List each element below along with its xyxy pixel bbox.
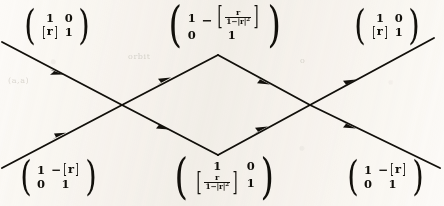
- edge-5-arrowhead: [256, 77, 270, 84]
- right-paren: ): [85, 160, 97, 194]
- cell-a21: 0: [34, 178, 48, 191]
- bracket-group: [r]: [62, 163, 80, 176]
- symbol-r: r: [395, 163, 401, 176]
- bracket-group: [r]: [41, 25, 59, 38]
- bracket-group: [r1−|r|2]: [215, 7, 262, 26]
- minus-sign: −: [378, 163, 388, 177]
- matrix-row: [r] 1: [38, 25, 76, 39]
- left-paren: (: [354, 9, 366, 43]
- figure-canvas: orbit (a,a) o: [0, 0, 444, 206]
- bracket-close: ]: [54, 26, 58, 38]
- den-abs-r: |r|: [217, 182, 226, 191]
- matrix-grid: 1 −[r] 0 1: [34, 163, 83, 191]
- matrix-grid: 1 0 [r1−|r|2] 1: [191, 160, 258, 194]
- bracket-open: [: [63, 163, 67, 175]
- cell-a22: 1: [244, 173, 258, 194]
- matrix-top-center: ( 1 −[r1−|r|2] 0 1 ): [166, 5, 283, 44]
- matrix-row: 0 1: [361, 178, 410, 191]
- cell-a12: 0: [62, 12, 76, 25]
- edge-5-line: [218, 55, 310, 105]
- matrix-row: [r1−|r|2] 1: [191, 173, 258, 194]
- bracket-group: [r1−|r|2]: [194, 173, 241, 192]
- cell-a11: 1: [34, 163, 48, 178]
- edge-3-line: [122, 55, 218, 105]
- bracket-close: ]: [75, 163, 79, 175]
- matrix-bottom-right: ( 1 −[r] 0 1 ): [345, 160, 426, 194]
- right-paren: ): [260, 157, 273, 196]
- bracket-close: ]: [233, 173, 238, 192]
- matrix-grid: 1 −[r] 0 1: [361, 163, 410, 191]
- fraction: r1−|r|2: [204, 173, 230, 191]
- bracket-open: [: [196, 173, 201, 192]
- bracket-group: [r]: [389, 163, 407, 176]
- cell-a12: −[r1−|r|2]: [199, 7, 265, 29]
- den-exponent: 2: [246, 16, 250, 22]
- cell-a21: [r1−|r|2]: [191, 173, 244, 194]
- matrix-grid: 1 0 [r] 1: [38, 12, 76, 39]
- denominator: 1−|r|2: [204, 183, 230, 191]
- cell-a22: 1: [48, 178, 83, 191]
- matrix-row: 1 −[r]: [361, 163, 410, 178]
- cell-a21: 0: [185, 29, 199, 42]
- right-paren: ): [267, 5, 280, 44]
- left-paren: (: [24, 9, 36, 43]
- right-paren: ): [412, 160, 424, 194]
- bracket-open: [: [217, 7, 222, 26]
- bracket-open: [: [372, 26, 376, 38]
- bracket-open: [: [42, 26, 46, 38]
- matrix-top-right: ( 1 0 [r] 1 ): [352, 9, 422, 43]
- matrix-row: 0 1: [34, 178, 83, 191]
- matrix-row: 1 −[r]: [34, 163, 83, 178]
- fraction: r1−|r|2: [225, 8, 251, 26]
- left-paren: (: [175, 157, 188, 196]
- cell-a11: 1: [361, 163, 375, 178]
- minus-sign: −: [51, 163, 61, 177]
- matrix-grid: 1 0 [r] 1: [368, 12, 406, 39]
- cell-a12: 0: [244, 160, 258, 173]
- bracket-close: ]: [254, 7, 259, 26]
- cell-a22: 1: [62, 25, 76, 39]
- cell-a21: [r]: [38, 25, 62, 39]
- cell-a22: 1: [392, 25, 406, 39]
- left-paren: (: [20, 160, 32, 194]
- edge-1-line: [2, 42, 122, 105]
- cell-a22: 1: [375, 178, 410, 191]
- cell-a12: −[r]: [375, 163, 410, 178]
- numerator: r: [213, 173, 221, 182]
- symbol-r: r: [68, 163, 74, 176]
- left-paren: (: [169, 5, 182, 44]
- cell-a21: [r]: [368, 25, 392, 39]
- cell-a21: 0: [361, 178, 375, 191]
- den-exponent: 2: [225, 181, 229, 187]
- bracket-close: ]: [402, 163, 406, 175]
- matrix-row: [r] 1: [368, 25, 406, 39]
- bracket-group: [r]: [371, 25, 389, 38]
- numerator: r: [234, 8, 242, 17]
- cell-a12: −[r]: [48, 163, 83, 178]
- matrix-row: 1 −[r1−|r|2]: [185, 7, 265, 29]
- den-abs-r: |r|: [237, 17, 246, 26]
- right-paren: ): [78, 9, 90, 43]
- matrix-bottom-left: ( 1 −[r] 0 1 ): [18, 160, 99, 194]
- symbol-r: r: [47, 25, 53, 38]
- right-paren: ): [408, 9, 420, 43]
- edge-6-arrowhead: [254, 127, 268, 134]
- minus-sign: −: [202, 13, 213, 28]
- matrix-bottom-center: ( 1 0 [r1−|r|2] 1 ): [172, 157, 276, 196]
- matrix-grid: 1 −[r1−|r|2] 0 1: [185, 7, 265, 41]
- edge-4-line: [122, 105, 218, 155]
- bracket-close: ]: [384, 26, 388, 38]
- cell-a11: 1: [185, 7, 199, 29]
- symbol-r: r: [377, 25, 383, 38]
- left-paren: (: [347, 160, 359, 194]
- bracket-open: [: [390, 163, 394, 175]
- denominator: 1−|r|2: [225, 18, 251, 26]
- matrix-top-left: ( 1 0 [r] 1 ): [22, 9, 92, 43]
- cell-a12: 0: [392, 12, 406, 25]
